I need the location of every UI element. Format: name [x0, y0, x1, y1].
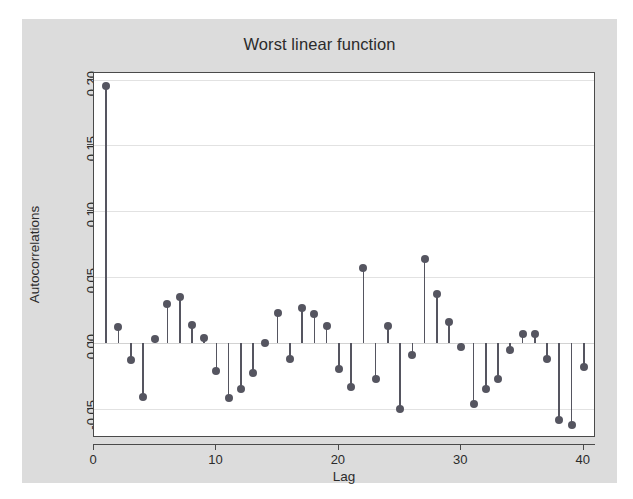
data-point-marker — [421, 255, 429, 263]
data-point-marker — [151, 335, 159, 343]
gridline — [94, 145, 594, 146]
data-point-marker — [445, 318, 453, 326]
stem-line — [571, 343, 573, 425]
data-point-marker — [359, 264, 367, 272]
data-point-marker — [139, 393, 147, 401]
data-point-marker — [274, 309, 282, 317]
stem-line — [399, 343, 401, 409]
data-point-marker — [212, 367, 220, 375]
stem-line — [142, 343, 144, 397]
figure-canvas: Worst linear function Autocorrelations -… — [22, 19, 617, 483]
data-point-marker — [506, 346, 514, 354]
gridline — [94, 277, 594, 278]
x-axis-tick-label: 10 — [208, 452, 222, 467]
gridline — [94, 211, 594, 212]
data-point-marker — [555, 416, 563, 424]
x-axis-tick-label: 30 — [453, 452, 467, 467]
data-point-marker — [494, 375, 502, 383]
data-point-marker — [237, 385, 245, 393]
x-axis-tick — [93, 444, 94, 450]
stem-line — [167, 304, 169, 344]
x-axis-tick-label: 40 — [576, 452, 590, 467]
data-point-marker — [310, 310, 318, 318]
data-point-marker — [372, 375, 380, 383]
x-axis-tick — [460, 444, 461, 450]
data-point-marker — [543, 355, 551, 363]
x-axis-line — [93, 444, 595, 445]
stem-line — [301, 308, 303, 344]
gridline — [94, 409, 594, 410]
data-point-marker — [188, 321, 196, 329]
data-point-marker — [347, 383, 355, 391]
data-point-marker — [519, 330, 527, 338]
data-point-marker — [127, 356, 135, 364]
data-point-marker — [482, 385, 490, 393]
data-point-marker — [102, 82, 110, 90]
data-point-marker — [531, 330, 539, 338]
stem-line — [105, 86, 107, 343]
data-point-marker — [298, 304, 306, 312]
data-point-marker — [408, 351, 416, 359]
data-point-marker — [470, 400, 478, 408]
stem-line — [350, 343, 352, 386]
stem-line — [436, 294, 438, 343]
x-axis-tick — [338, 444, 339, 450]
data-point-marker — [433, 290, 441, 298]
data-point-marker — [261, 339, 269, 347]
x-axis-title: Lag — [93, 469, 595, 484]
data-point-marker — [457, 343, 465, 351]
data-point-marker — [580, 363, 588, 371]
stem-line — [558, 343, 560, 419]
plot-panel — [93, 72, 595, 437]
stem-line — [363, 268, 365, 343]
data-point-marker — [335, 365, 343, 373]
x-axis-tick-label: 0 — [89, 452, 96, 467]
chart-title: Worst linear function — [22, 35, 617, 54]
stem-line — [424, 259, 426, 343]
data-point-marker — [225, 394, 233, 402]
stem-line — [277, 313, 279, 343]
stem-line — [375, 343, 377, 379]
data-point-marker — [200, 334, 208, 342]
data-point-marker — [384, 322, 392, 330]
stem-line — [240, 343, 242, 389]
data-point-marker — [176, 293, 184, 301]
stem-line — [473, 343, 475, 404]
data-point-marker — [568, 421, 576, 429]
data-point-marker — [323, 322, 331, 330]
data-point-marker — [114, 323, 122, 331]
stem-line — [228, 343, 230, 398]
data-point-marker — [163, 300, 171, 308]
stem-line — [314, 314, 316, 343]
stem-line — [485, 343, 487, 389]
data-point-marker — [396, 405, 404, 413]
x-axis-tick-label: 20 — [331, 452, 345, 467]
data-point-marker — [249, 369, 257, 377]
stem-line — [497, 343, 499, 379]
zero-gridline — [94, 343, 594, 344]
data-point-marker — [286, 355, 294, 363]
stem-line — [179, 297, 181, 343]
x-axis-tick — [583, 444, 584, 450]
gridline — [94, 80, 594, 81]
y-axis: -0.050.000.050.100.150.20 — [22, 19, 93, 439]
x-axis-tick — [215, 444, 216, 450]
